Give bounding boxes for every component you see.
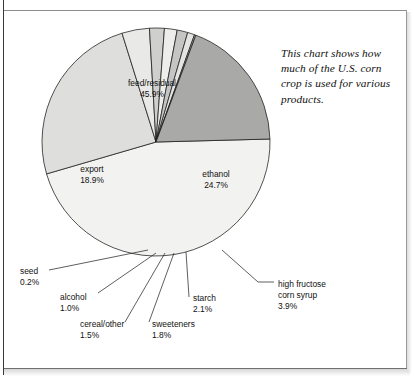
leader-line-starch bbox=[186, 252, 189, 297]
label-name: sweeteners bbox=[152, 319, 195, 329]
label-value: 0.2% bbox=[20, 277, 40, 287]
label-seed: seed0.2% bbox=[20, 266, 40, 287]
chart-page: feed/residual45.9%ethanol24.7%high fruct… bbox=[0, 0, 414, 386]
label-name: alcohol bbox=[60, 292, 87, 302]
leader-line-cereal-other bbox=[125, 253, 165, 322]
callout-leader-lines bbox=[49, 250, 274, 322]
label-value: 45.9% bbox=[140, 89, 164, 99]
pie-wedges bbox=[42, 28, 270, 256]
label-name: starch bbox=[193, 293, 216, 303]
label-high-fructose-corn-syrup: high fructosecorn syrup3.9% bbox=[278, 279, 326, 311]
label-value: 2.1% bbox=[193, 304, 213, 314]
label-name: cereal/other bbox=[80, 319, 124, 329]
label-starch: starch2.1% bbox=[193, 293, 216, 314]
label-name: high fructose bbox=[278, 279, 326, 289]
label-name: corn syrup bbox=[278, 290, 317, 300]
label-cereal-other: cereal/other1.5% bbox=[80, 319, 124, 340]
label-alcohol: alcohol1.0% bbox=[60, 292, 87, 313]
label-value: 1.5% bbox=[80, 330, 100, 340]
label-export: export18.9% bbox=[80, 164, 104, 185]
leader-line-high-fructose-corn-syrup bbox=[222, 250, 274, 282]
label-value: 24.7% bbox=[204, 180, 228, 190]
label-sweeteners: sweeteners1.8% bbox=[152, 319, 195, 340]
leader-line-alcohol bbox=[98, 253, 156, 293]
label-value: 1.8% bbox=[152, 330, 172, 340]
label-name: seed bbox=[20, 266, 39, 276]
label-ethanol: ethanol24.7% bbox=[202, 169, 230, 190]
label-name: ethanol bbox=[202, 169, 230, 179]
label-value: 18.9% bbox=[80, 175, 104, 185]
label-name: feed/residual bbox=[128, 78, 176, 88]
chart-annotation-note: This chart shows how much of the U.S. co… bbox=[281, 46, 401, 107]
leader-line-seed bbox=[49, 250, 148, 270]
label-value: 1.0% bbox=[60, 303, 80, 313]
label-name: export bbox=[80, 164, 104, 174]
leader-line-sweeteners bbox=[149, 253, 174, 322]
label-value: 3.9% bbox=[278, 301, 298, 311]
